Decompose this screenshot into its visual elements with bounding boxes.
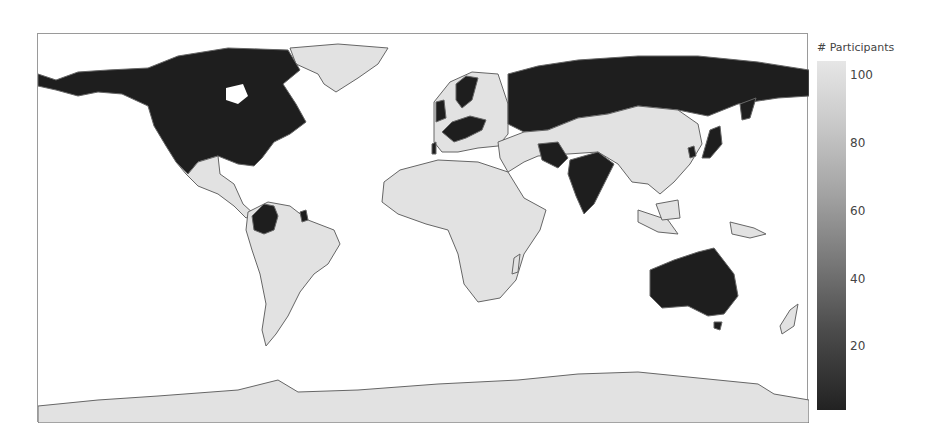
- colorbar-tick-40: 40: [850, 272, 865, 286]
- world-map[interactable]: [37, 33, 808, 422]
- colorbar-title: # Participants: [817, 41, 894, 54]
- portugal: [432, 142, 436, 154]
- africa: [382, 160, 546, 302]
- antarctica: [38, 372, 809, 423]
- tasmania: [714, 322, 722, 330]
- korea: [688, 146, 696, 158]
- new-zealand: [780, 304, 798, 334]
- greenland: [290, 44, 388, 92]
- colorbar-tick-60: 60: [850, 204, 865, 218]
- colorbar-tick-100: 100: [850, 68, 873, 82]
- north-america: [38, 48, 306, 174]
- australia: [650, 248, 738, 316]
- colorbar-tick-80: 80: [850, 136, 865, 150]
- india: [568, 152, 614, 214]
- map-geo: [38, 34, 809, 423]
- japan: [702, 126, 722, 158]
- colorbar: [817, 61, 846, 410]
- colorbar-tick-20: 20: [850, 339, 865, 353]
- suriname: [300, 210, 308, 222]
- png: [730, 222, 766, 238]
- uk: [436, 100, 446, 122]
